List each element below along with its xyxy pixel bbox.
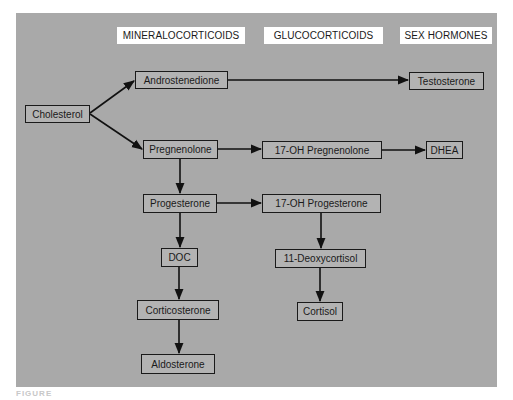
node-testosterone: Testosterone (409, 72, 484, 90)
node-progesterone: Progesterone (143, 194, 217, 213)
node-11-deoxycortisol: 11-Deoxycortisol (275, 249, 366, 268)
pathway-arrows (0, 0, 513, 400)
header-mineralocorticoids: MINERALOCORTICOIDS (117, 27, 245, 44)
header-sex-hormones: SEX HORMONES (400, 27, 492, 44)
node-17oh-pregnenolone: 17-OH Pregnenolone (262, 141, 382, 159)
node-cholesterol: Cholesterol (25, 105, 90, 123)
node-dhea: DHEA (426, 141, 463, 159)
node-17oh-progesterone: 17-OH Progesterone (262, 194, 381, 213)
node-cortisol: Cortisol (297, 302, 343, 321)
node-doc: DOC (161, 248, 198, 267)
node-corticosterone: Corticosterone (137, 300, 219, 320)
node-androstenedione: Androstenedione (135, 71, 228, 89)
node-pregnenolone: Pregnenolone (143, 140, 218, 159)
arrow-cholesterol-androstenedione (90, 81, 134, 113)
node-aldosterone: Aldosterone (141, 354, 215, 374)
figure-caption: FIGURE (16, 389, 52, 398)
arrow-cholesterol-pregnenolone (90, 114, 142, 149)
header-glucocorticoids: GLUCOCORTICOIDS (264, 27, 383, 44)
